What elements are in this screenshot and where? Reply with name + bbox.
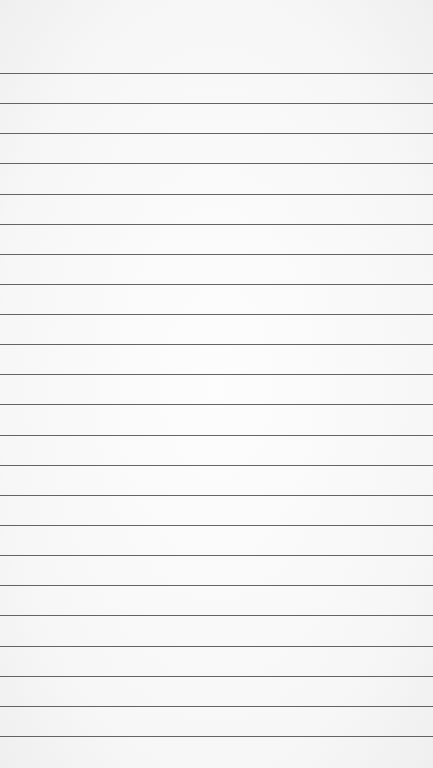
ruled-line xyxy=(0,495,433,496)
ruled-line xyxy=(0,706,433,707)
ruled-line xyxy=(0,163,433,164)
ruled-line xyxy=(0,465,433,466)
ruled-line xyxy=(0,73,433,74)
ruled-line xyxy=(0,284,433,285)
ruled-line xyxy=(0,103,433,104)
ruled-line xyxy=(0,615,433,616)
ruled-line xyxy=(0,194,433,195)
ruled-line xyxy=(0,133,433,134)
ruled-line xyxy=(0,404,433,405)
ruled-line xyxy=(0,585,433,586)
ruled-line xyxy=(0,435,433,436)
ruled-line xyxy=(0,525,433,526)
lined-paper xyxy=(0,0,433,768)
ruled-line xyxy=(0,254,433,255)
ruled-line xyxy=(0,344,433,345)
ruled-line xyxy=(0,676,433,677)
ruled-line xyxy=(0,555,433,556)
ruled-line xyxy=(0,314,433,315)
ruled-line xyxy=(0,224,433,225)
ruled-line xyxy=(0,374,433,375)
ruled-line xyxy=(0,646,433,647)
ruled-line xyxy=(0,736,433,737)
